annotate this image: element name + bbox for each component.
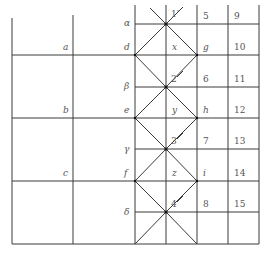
node-4 bbox=[164, 210, 167, 213]
leader-4 bbox=[177, 196, 183, 202]
label-f: f bbox=[123, 168, 129, 178]
label-node-4: 4 bbox=[171, 199, 177, 209]
label-node-2: 2 bbox=[171, 74, 177, 84]
label-a: a bbox=[63, 42, 68, 52]
label-delta: δ bbox=[124, 207, 129, 217]
label-11: 11 bbox=[234, 74, 245, 84]
label-15: 15 bbox=[234, 199, 246, 209]
label-i: i bbox=[203, 168, 206, 178]
leader-3 bbox=[177, 133, 183, 139]
label-9: 9 bbox=[234, 11, 240, 21]
label-h: h bbox=[203, 105, 209, 115]
label-5: 5 bbox=[203, 11, 209, 21]
label-8: 8 bbox=[203, 199, 209, 209]
label-13: 13 bbox=[234, 136, 246, 146]
label-e: e bbox=[124, 105, 129, 115]
node-d bbox=[134, 54, 136, 56]
node-g bbox=[196, 54, 198, 56]
label-alpha: α bbox=[124, 18, 130, 28]
label-beta: β bbox=[123, 81, 129, 91]
node-3 bbox=[164, 147, 167, 150]
node-h bbox=[196, 117, 198, 119]
label-x: x bbox=[172, 42, 177, 52]
label-g: g bbox=[203, 42, 209, 52]
label-7: 7 bbox=[203, 136, 209, 146]
bottom-x-left bbox=[135, 212, 166, 244]
label-z: z bbox=[171, 168, 177, 178]
label-c: c bbox=[63, 168, 68, 178]
label-d: d bbox=[124, 42, 130, 52]
top-x-left bbox=[150, 8, 166, 24]
node-f bbox=[134, 180, 136, 182]
label-b: b bbox=[63, 105, 69, 115]
label-y: y bbox=[171, 105, 178, 115]
label-node-3: 3 bbox=[171, 136, 177, 146]
label-gamma: γ bbox=[124, 144, 130, 154]
node-e bbox=[134, 117, 136, 119]
label-12: 12 bbox=[234, 105, 245, 115]
label-6: 6 bbox=[203, 74, 209, 84]
label-node-1: 1′ bbox=[171, 9, 179, 19]
node-2 bbox=[164, 85, 167, 88]
node-i bbox=[196, 180, 198, 182]
bottom-x-right bbox=[166, 212, 197, 244]
label-14: 14 bbox=[234, 168, 246, 178]
grid-diagram: a b c α β γ δ d e f x y z g h i 1′ 2 3 4… bbox=[0, 0, 270, 253]
label-10: 10 bbox=[234, 42, 246, 52]
node-1 bbox=[164, 22, 167, 25]
